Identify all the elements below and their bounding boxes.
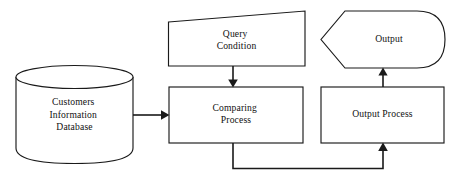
flowchart-diagram: Customers Information Database Query Con… (0, 0, 455, 176)
edge-db-to-comparing-arrowhead (161, 110, 170, 120)
edge-query-to-comparing-arrowhead (228, 80, 238, 88)
edge-output-process-to-output-arrowhead (378, 68, 387, 76)
comparing-process-label-line2: Process (221, 114, 251, 125)
edge-output-process-to-output (378, 68, 387, 88)
flowchart-canvas: Customers Information Database Query Con… (0, 0, 455, 176)
query-condition-label-line1: Query (223, 28, 248, 39)
node-customers-information-database: Customers Information Database (16, 66, 133, 164)
edge-db-to-comparing (133, 110, 170, 120)
output-label: Output (375, 33, 403, 44)
database-label: Customers Information Database (49, 96, 99, 132)
database-label-line3: Database (56, 121, 92, 132)
node-comparing-process: Comparing Process (169, 87, 303, 143)
query-condition-label-line2: Condition (217, 40, 257, 51)
output-label-line1: Output (375, 33, 403, 44)
output-process-label-line1: Output Process (352, 108, 413, 119)
edge-comparing-to-output-process-arrowhead (378, 143, 388, 152)
node-output: Output (321, 11, 445, 68)
node-output-process: Output Process (321, 87, 444, 143)
edge-comparing-to-output-process-line (233, 143, 383, 169)
edge-comparing-to-output-process (233, 143, 388, 169)
database-label-line1: Customers (52, 96, 95, 107)
database-label-line2: Information (49, 109, 97, 120)
comparing-process-label-line1: Comparing (212, 102, 257, 113)
database-cylinder-top (16, 66, 133, 89)
edge-query-to-comparing (228, 66, 238, 88)
node-query-condition: Query Condition (169, 11, 306, 66)
output-process-label: Output Process (352, 108, 413, 119)
